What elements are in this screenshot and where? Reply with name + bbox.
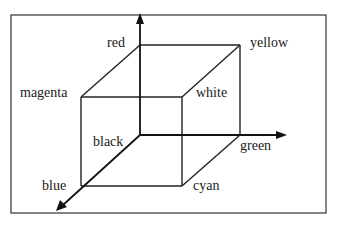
label-magenta: magenta	[20, 85, 68, 100]
label-black: black	[93, 134, 123, 149]
label-green: green	[240, 138, 271, 153]
label-white: white	[196, 85, 227, 100]
label-cyan: cyan	[193, 178, 219, 193]
label-yellow: yellow	[250, 35, 289, 50]
label-blue: blue	[42, 178, 66, 193]
label-red: red	[107, 35, 125, 50]
rgb-color-cube-diagram: red yellow magenta white black green blu…	[0, 0, 337, 225]
